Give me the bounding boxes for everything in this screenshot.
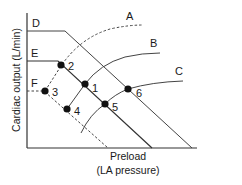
y-axis-label: Cardiac output (L/min)	[10, 28, 22, 132]
point-3	[41, 87, 48, 94]
venous-return-curve-e	[27, 61, 152, 148]
point-1	[81, 80, 88, 87]
point-6	[124, 85, 131, 92]
venous-return-curve-f	[27, 91, 108, 148]
label-c: C	[175, 65, 183, 77]
point-label-4: 4	[74, 105, 80, 117]
cardiac-output-diagram: A B C D E F 1 2 3 4 5 6 Cardiac output (…	[0, 0, 242, 185]
label-e: E	[31, 47, 38, 59]
x-axis-label-line1: Preload	[110, 150, 146, 162]
label-a: A	[126, 10, 134, 22]
point-label-3: 3	[52, 86, 58, 98]
label-f: F	[31, 77, 38, 89]
point-4	[63, 105, 70, 112]
point-label-6: 6	[136, 87, 142, 99]
point-2	[57, 61, 64, 68]
point-label-2: 2	[68, 60, 74, 72]
point-5	[101, 100, 108, 107]
x-axis-label-line2: (LA pressure)	[96, 164, 159, 176]
label-d: D	[32, 17, 40, 29]
label-b: B	[150, 37, 157, 49]
point-label-5: 5	[112, 101, 118, 113]
point-label-1: 1	[92, 82, 98, 94]
